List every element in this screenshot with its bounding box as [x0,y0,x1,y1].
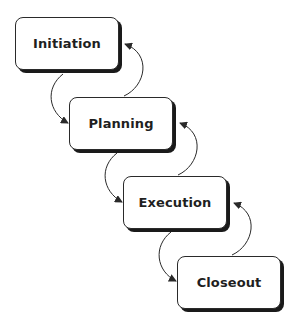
phase-box-planning: Planning [69,97,173,150]
arrow-initiation-to-planning [51,74,68,123]
arrow-planning-to-initiation [124,44,143,96]
phase-label: Planning [88,116,153,131]
arrow-execution-to-planning [178,123,197,175]
arrow-planning-to-execution [105,153,122,202]
phase-label: Closeout [197,275,262,290]
phase-box-closeout: Closeout [177,256,281,309]
phase-label: Execution [139,195,212,210]
phase-box-execution: Execution [123,176,227,229]
phase-box-initiation: Initiation [15,17,119,70]
arrow-execution-to-closeout [159,232,176,281]
arrow-closeout-to-execution [232,203,251,255]
waterfall-diagram: Initiation Planning Execution Closeout [0,0,301,327]
phase-label: Initiation [33,36,101,51]
